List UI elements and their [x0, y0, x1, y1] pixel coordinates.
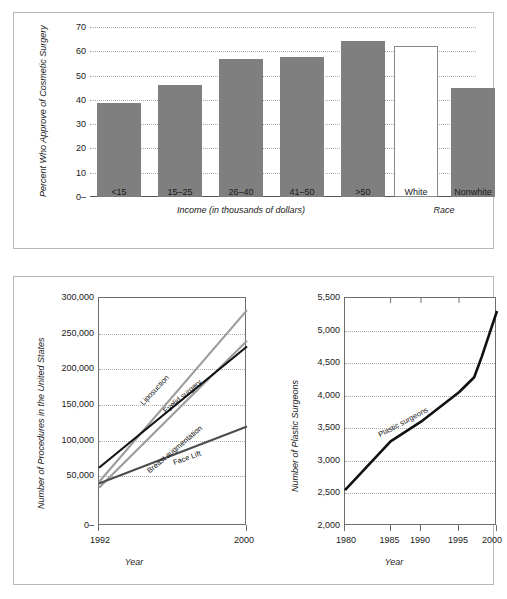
- line-plastic-surgeons: [345, 311, 497, 490]
- procedures-x-axis-title: Year: [14, 557, 254, 567]
- bar-group-title-income: Income (in thousands of dollars): [177, 205, 305, 215]
- surgeons-x-axis-title: Year: [294, 557, 494, 567]
- y-tick: 4,500: [296, 357, 340, 367]
- bar-income-15-25: [158, 85, 202, 197]
- bar-x-label-15-25: 15–25: [167, 187, 192, 197]
- bar-income-gt50: [341, 41, 385, 197]
- y-tick: 150,000: [40, 399, 94, 409]
- bar-x-label-41-50: 41–50: [289, 187, 314, 197]
- y-tick: 4,000: [296, 390, 340, 400]
- y-tick: 60: [76, 46, 86, 56]
- y-tick: 200,000: [40, 363, 94, 373]
- bar-x-label-gt50: >50: [355, 187, 370, 197]
- y-tick: 2,000: [296, 520, 340, 530]
- line-breast-augmentation: [99, 341, 247, 488]
- bar-income-41-50: [280, 57, 324, 198]
- x-tickmark: [496, 525, 497, 531]
- surgeons-plot-area: Plastic surgeons: [344, 297, 496, 525]
- x-tickmark: [98, 525, 99, 531]
- y-tick: 3,500: [296, 422, 340, 432]
- procedures-series-svg: [99, 298, 247, 526]
- y-tick: 0–: [40, 520, 94, 530]
- x-tickmark: [420, 525, 421, 531]
- line-charts-panel: Number of Procedures in the United State…: [13, 276, 494, 585]
- bar-chart-y-ticks: 70 60 50 40 30 20 10 0–: [44, 27, 86, 197]
- bar-group-title-race: Race: [433, 205, 454, 215]
- surgeons-line-chart: Number of Plastic Surgeons 5,500 5,000 4…: [254, 277, 495, 586]
- x-tick-2000: 2000: [482, 535, 502, 545]
- x-tickmark: [246, 525, 247, 531]
- y-tick: 300,000: [40, 292, 94, 302]
- y-tick: 250,000: [40, 328, 94, 338]
- bar-chart-panel: Percent Who Approve of Cosmetic Surgery …: [13, 12, 494, 249]
- x-tickmark: [390, 525, 391, 531]
- figure-page: Percent Who Approve of Cosmetic Surgery …: [0, 0, 507, 599]
- bar-x-label-nonwhite: Nonwhite: [454, 187, 492, 197]
- x-tickmark: [344, 525, 345, 531]
- y-tick: 30: [76, 119, 86, 129]
- bar-x-label-26-40: 26–40: [228, 187, 253, 197]
- x-tick-2000: 2000: [234, 535, 254, 545]
- procedures-line-chart: Number of Procedures in the United State…: [14, 277, 254, 586]
- y-tick: 2,500: [296, 487, 340, 497]
- bar-income-26-40: [219, 59, 263, 197]
- y-tick: 10: [76, 168, 86, 178]
- x-tick-1985: 1985: [380, 535, 400, 545]
- x-tick-1980: 1980: [336, 535, 356, 545]
- bar-income-lt15: [97, 103, 141, 197]
- bar-chart: Percent Who Approve of Cosmetic Surgery …: [14, 13, 495, 250]
- x-tick-1990: 1990: [410, 535, 430, 545]
- y-tick: 50,000: [40, 470, 94, 480]
- bar-x-label-lt15: <15: [111, 187, 126, 197]
- y-tick: 0–: [76, 192, 86, 202]
- y-tick: 40: [76, 95, 86, 105]
- y-tick: 20: [76, 143, 86, 153]
- bar-race-white: [394, 46, 438, 197]
- x-tick-1995: 1995: [448, 535, 468, 545]
- gridline: [90, 27, 476, 28]
- y-tick: 5,000: [296, 325, 340, 335]
- y-tick: 50: [76, 71, 86, 81]
- y-tick: 100,000: [40, 435, 94, 445]
- procedures-plot-area: Liposuction Eyelid surgery Breast augmen…: [98, 297, 246, 525]
- y-tick: 3,000: [296, 455, 340, 465]
- x-tick-1992: 1992: [90, 535, 110, 545]
- y-tick: 5,500: [296, 292, 340, 302]
- y-tick: 70: [76, 22, 86, 32]
- bar-chart-plot-area: [90, 27, 476, 197]
- bar-race-nonwhite: [451, 88, 495, 197]
- bar-x-label-white: White: [404, 187, 427, 197]
- x-tickmark: [458, 525, 459, 531]
